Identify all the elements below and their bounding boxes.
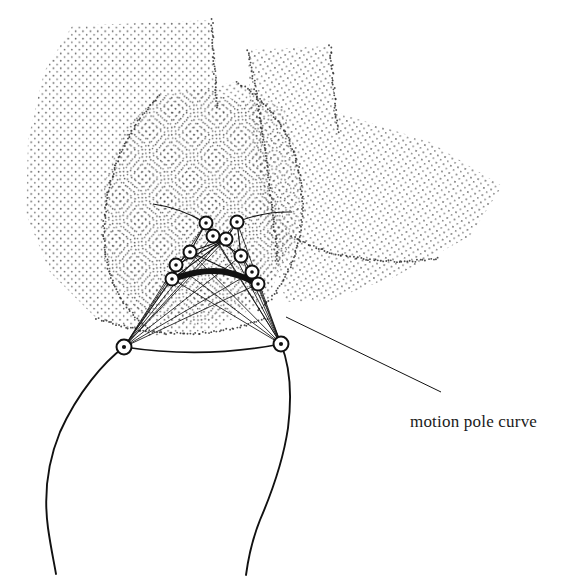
ground-link-arc xyxy=(124,344,281,352)
joint-marker-P7 xyxy=(170,259,183,272)
motion-pole-curve-figure: motion pole curve xyxy=(0,0,576,578)
joint-marker-P10 xyxy=(252,278,265,291)
joint-marker-P6 xyxy=(235,250,248,263)
diagram-canvas xyxy=(0,0,576,578)
joint-marker-P9 xyxy=(166,273,179,286)
leader-line xyxy=(286,317,441,392)
bone-right-edge xyxy=(246,344,290,575)
joint-marker-P8 xyxy=(246,266,259,279)
bone-outline xyxy=(46,344,290,575)
joint-marker-P4 xyxy=(220,233,233,246)
joint-marker-P1 xyxy=(200,217,213,230)
stippled-coupler-planes xyxy=(26,20,502,336)
joint-marker-P3 xyxy=(207,230,220,243)
label-leader-line xyxy=(286,317,441,392)
base-pivot-B0 xyxy=(274,337,289,352)
bone-left-edge xyxy=(46,347,124,574)
joint-marker-P2 xyxy=(231,216,244,229)
joint-marker-P5 xyxy=(184,246,197,259)
motion-pole-curve-label: motion pole curve xyxy=(410,412,537,432)
base-pivot-A0 xyxy=(117,340,132,355)
